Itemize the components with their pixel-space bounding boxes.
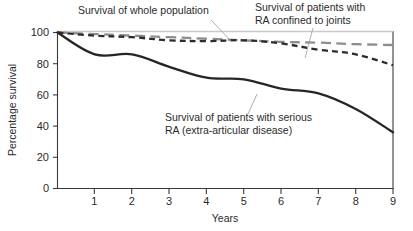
x-axis-tick-labels: 1 2 3 4 5 6 7 8 9	[91, 195, 396, 207]
annotation-whole-population: Survival of whole population	[78, 4, 209, 16]
x-tick-label-5: 5	[241, 195, 247, 207]
annotation-ra-confined-line-2: RA confined to joints	[255, 14, 351, 26]
x-tick-label-2: 2	[129, 195, 135, 207]
y-tick-label-100: 100	[31, 26, 49, 38]
annotation-ra-confined-line-1: Survival of patients with	[255, 1, 365, 13]
annotation-leaders	[211, 20, 313, 114]
y-axis-ticks	[53, 33, 58, 189]
x-tick-label-8: 8	[353, 195, 359, 207]
survival-chart-figure: 0 20 40 60 80 100 1 2 3 4 5 6 7 8	[0, 0, 413, 231]
x-tick-label-4: 4	[203, 195, 209, 207]
x-tick-label-3: 3	[166, 195, 172, 207]
y-tick-label-0: 0	[43, 182, 49, 194]
y-axis-tick-labels: 0 20 40 60 80 100	[31, 26, 49, 194]
annotation-serious-ra-line-2: RA (extra-articular disease)	[165, 124, 292, 136]
annotation-serious-ra: Survival of patients with serious RA (ex…	[165, 111, 312, 136]
x-axis-ticks	[94, 189, 393, 195]
y-tick-label-20: 20	[37, 151, 49, 163]
y-tick-label-40: 40	[37, 120, 49, 132]
series-ra-confined-to-joints	[58, 33, 394, 66]
annotation-ra-confined-to-joints: Survival of patients with RA confined to…	[255, 1, 365, 26]
y-tick-label-60: 60	[37, 89, 49, 101]
x-tick-label-7: 7	[315, 195, 321, 207]
x-tick-label-9: 9	[390, 195, 396, 207]
x-tick-label-6: 6	[278, 195, 284, 207]
chart-svg: 0 20 40 60 80 100 1 2 3 4 5 6 7 8	[0, 0, 413, 231]
y-tick-label-80: 80	[37, 58, 49, 70]
x-axis-title: Years	[212, 212, 238, 224]
annotation-whole-population-line-1: Survival of whole population	[78, 4, 209, 16]
annotation-serious-ra-line-1: Survival of patients with serious	[165, 111, 312, 123]
x-tick-label-1: 1	[91, 195, 97, 207]
y-axis-title: Percentage survival	[6, 64, 18, 156]
